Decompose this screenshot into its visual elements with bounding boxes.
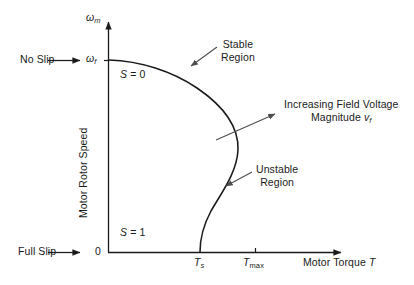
increasing-field-voltage-arrow — [216, 114, 275, 140]
y-tick-label-zero: 0 — [95, 245, 101, 258]
x-tick-label-tmax: Tmax — [243, 256, 264, 269]
diagram-canvas — [0, 0, 414, 285]
field-voltage-line1: Increasing Field Voltage — [284, 98, 398, 111]
slip-zero-label: S = 0 — [120, 68, 145, 81]
no-slip-label: No Slip — [20, 53, 55, 66]
x-axis-title: Motor Torque T — [303, 256, 375, 269]
stable-region-line2: Region — [221, 51, 255, 64]
stable-region-label: Stable Region — [221, 38, 255, 64]
stable-region-leader-arrow — [191, 47, 217, 66]
x-tick-label-ts: Ts — [194, 256, 204, 269]
unstable-region-line1: Unstable — [256, 163, 298, 176]
increasing-field-voltage-label: Increasing Field Voltage Magnitude vf — [284, 98, 398, 124]
y-tick-label-omega-f: ωf — [86, 52, 96, 65]
torque-speed-curve — [109, 60, 238, 252]
unstable-region-line2: Region — [256, 176, 298, 189]
slip-one-label: S = 1 — [120, 226, 145, 239]
field-voltage-line2: Magnitude vf — [284, 111, 398, 124]
y-axis-symbol: ωm — [86, 11, 101, 24]
y-axis-title: Motor Rotor Speed — [77, 128, 90, 218]
stable-region-line1: Stable — [221, 38, 255, 51]
motor-torque-speed-diagram: ωm ωf 0 Motor Rotor Speed No Slip Full S… — [0, 0, 414, 285]
unstable-region-label: Unstable Region — [256, 163, 298, 189]
full-slip-label: Full Slip — [18, 245, 56, 258]
